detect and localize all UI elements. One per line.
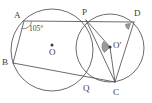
segment-b-c	[13, 63, 115, 82]
geometry-canvas	[0, 0, 152, 103]
angle-wedge-at-d	[126, 24, 131, 30]
point-label-b: B	[2, 58, 8, 67]
center-dot-o-prime	[108, 45, 111, 48]
point-label-d: D	[134, 9, 141, 18]
center-label-o: O	[49, 48, 56, 57]
point-label-p: P	[82, 8, 87, 17]
segment-a-b	[13, 21, 24, 63]
angle-label-105: 105°	[29, 25, 43, 33]
point-label-a: A	[14, 11, 21, 20]
segment-d-c	[115, 22, 134, 82]
segment-a-d	[24, 21, 134, 22]
point-label-q: Q	[83, 84, 90, 93]
center-label-o-prime: O′	[113, 41, 121, 50]
geometry-figure: A B P D Q C O O′ 105°	[0, 0, 152, 103]
point-label-c: C	[113, 88, 119, 97]
